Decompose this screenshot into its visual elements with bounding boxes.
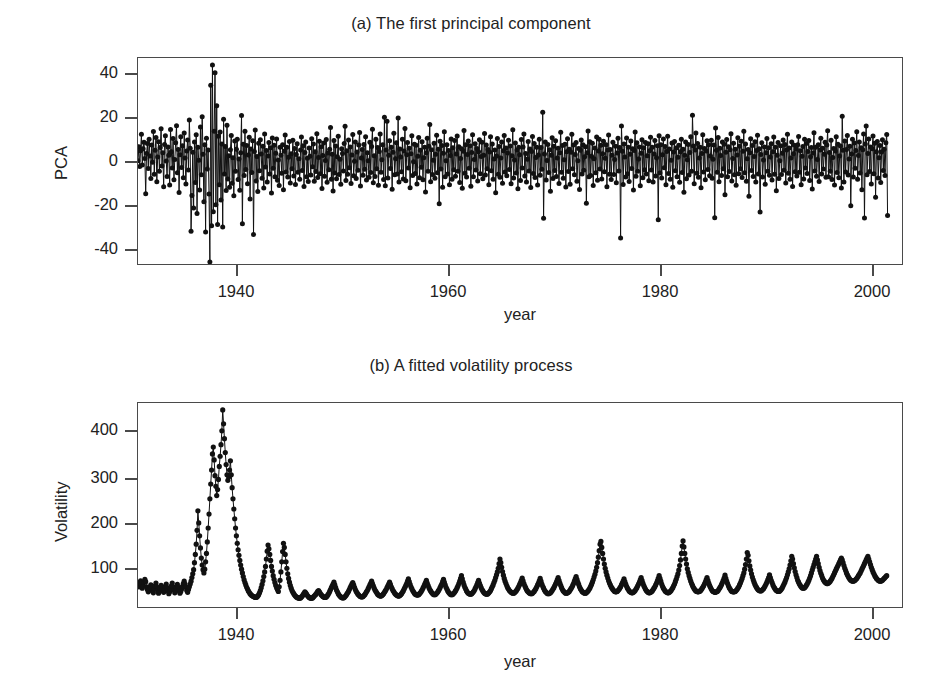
panel-b-xtick-label-1940: 1940 [186, 625, 286, 644]
panel-b-xtick-mark-1940 [236, 608, 238, 619]
panel-b-xtick-mark-1980 [660, 608, 662, 619]
panel-b-xtick-label-1980: 1980 [610, 625, 710, 644]
panel-a-xtick-label-1940: 1940 [186, 282, 286, 301]
panel-b-xtick-mark-2000 [872, 608, 874, 619]
panel-a-ytick-mark-20 [125, 117, 137, 119]
panel-a-ytick-label-neg20: -20 [66, 195, 118, 214]
panel-a-xtick-mark-1960 [448, 265, 450, 276]
panel-a-xtick-label-1960: 1960 [398, 282, 498, 301]
panel-a-ytick-label-20: 20 [72, 107, 118, 126]
panel-b-series-volatility [138, 403, 903, 608]
panel-b-y-axis-title: Volatility [52, 481, 71, 542]
panel-a-ytick-label-neg40: -40 [66, 239, 118, 258]
panel-a-ytick-label-40: 40 [72, 63, 118, 82]
figure-two-panel-timeseries: (a) The first principal component PCA 40… [0, 0, 942, 684]
panel-b-plot-area [137, 402, 903, 608]
panel-a-y-axis-title: PCA [52, 146, 71, 180]
panel-a-xtick-mark-1940 [236, 265, 238, 276]
panel-a-xtick-mark-2000 [872, 265, 874, 276]
panel-a-xtick-label-1980: 1980 [610, 282, 710, 301]
panel-a-xtick-mark-1980 [660, 265, 662, 276]
panel-b-xtick-label-2000: 2000 [822, 625, 922, 644]
panel-a-xtick-label-2000: 2000 [822, 282, 922, 301]
panel-a-title: (a) The first principal component [0, 14, 942, 33]
panel-b-ytick-label-200: 200 [60, 513, 118, 532]
panel-b-ytick-label-100: 100 [60, 558, 118, 577]
panel-fitted-volatility-process: (b) A fitted volatility process Volatili… [0, 342, 942, 684]
panel-b-ytick-label-300: 300 [60, 468, 118, 487]
panel-a-ytick-mark-neg20 [125, 205, 137, 207]
panel-b-ytick-mark-400 [125, 430, 137, 432]
panel-a-ytick-mark-40 [125, 73, 137, 75]
panel-b-xtick-mark-1960 [448, 608, 450, 619]
panel-a-plot-area [137, 57, 903, 265]
panel-b-x-axis-title: year [420, 652, 620, 671]
panel-b-ytick-label-400: 400 [60, 420, 118, 439]
panel-b-xtick-label-1960: 1960 [398, 625, 498, 644]
panel-b-ytick-mark-100 [125, 568, 137, 570]
panel-b-title: (b) A fitted volatility process [0, 356, 942, 375]
panel-a-series-pca [138, 58, 903, 265]
panel-a-x-axis-title: year [420, 305, 620, 324]
panel-a-ytick-mark-neg40 [125, 249, 137, 251]
panel-a-ytick-label-0: 0 [72, 151, 118, 170]
panel-b-ytick-mark-300 [125, 478, 137, 480]
panel-b-ytick-mark-200 [125, 523, 137, 525]
panel-first-principal-component: (a) The first principal component PCA 40… [0, 0, 942, 342]
panel-a-ytick-mark-0 [125, 161, 137, 163]
